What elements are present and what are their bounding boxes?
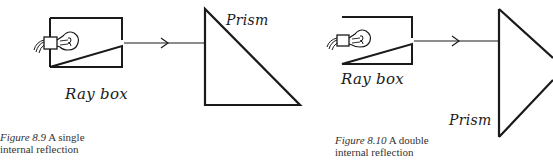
ray-arrow-icon: [124, 38, 205, 48]
caption-text-line1: A double: [389, 134, 429, 146]
figure-number: Figure 8.10: [335, 134, 387, 146]
figure-caption-8-10: Figure 8.10 A double internal reflection: [335, 134, 429, 158]
figure-page: Prism Ray box Figure 8.9 A single intern…: [0, 0, 553, 167]
ray-arrow-icon: [414, 36, 499, 46]
ray-box-label-left: Ray box: [65, 85, 128, 103]
figure-caption-8-9: Figure 8.9 A single internal reflection: [0, 131, 85, 155]
prism-triangle: [499, 9, 553, 137]
prism-label-left: Prism: [226, 12, 269, 28]
ray-box-left: [50, 18, 122, 67]
caption-text-line1: A single: [48, 131, 84, 143]
prism-label-right: Prism: [449, 112, 492, 128]
light-bulb-icon: [327, 30, 371, 50]
caption-text-line2: internal reflection: [0, 143, 79, 155]
caption-text-line2: internal reflection: [335, 146, 414, 158]
figure-number: Figure 8.9: [0, 131, 46, 143]
ray-box-label-right: Ray box: [341, 70, 404, 88]
ray-box-right: [342, 17, 412, 64]
light-bulb-icon: [34, 32, 79, 53]
